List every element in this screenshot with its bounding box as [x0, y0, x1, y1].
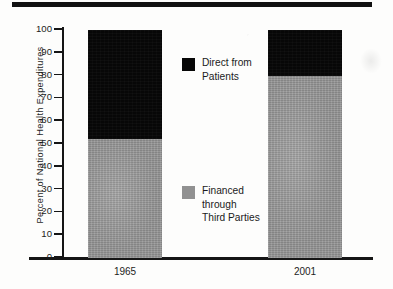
y-axis-tick-label-wrap: 80: [24, 70, 52, 80]
bar-segment-direct-from-patients[interactable]: [268, 30, 342, 76]
y-axis-tick-label: 50: [26, 138, 52, 148]
y-axis-tick-mark: [54, 188, 63, 190]
y-axis-tick-mark: [54, 211, 63, 213]
x-axis-category-label: 2001: [260, 266, 350, 277]
scanned-page: Percent of National Health Expenditures …: [0, 0, 393, 289]
y-axis-tick-mark: [54, 165, 63, 167]
y-axis-tick-label: 90: [26, 47, 52, 57]
bar-group-2001[interactable]: [268, 30, 342, 258]
legend-line-2: through: [202, 198, 260, 212]
y-axis-tick-mark: [54, 28, 63, 30]
gray-swatch-icon: [182, 186, 195, 199]
y-axis-tick-label: 80: [26, 70, 52, 80]
bar-segment-financed-through-third-parties[interactable]: [268, 76, 342, 258]
y-axis-tick-label: 60: [26, 115, 52, 125]
y-axis-tick-label-wrap: 40: [24, 161, 52, 171]
black-swatch-icon: [182, 58, 195, 71]
x-axis-category-label: 1965: [80, 266, 170, 277]
y-axis-tick-label-wrap: 20: [24, 206, 52, 216]
bar-segment-financed-through-third-parties[interactable]: [88, 139, 162, 258]
y-axis-tick-label-wrap: 100: [24, 24, 52, 34]
y-axis-tick-mark: [54, 256, 63, 258]
y-axis-tick-label: 70: [26, 92, 52, 102]
stacked-bar-chart: Percent of National Health Expenditures …: [0, 0, 393, 289]
y-axis-tick-label-wrap: 10: [24, 229, 52, 239]
y-axis-tick-label-wrap: 30: [24, 184, 52, 194]
y-axis-tick-mark: [54, 119, 63, 121]
legend-label-financed-third-parties: Financed through Third Parties: [202, 184, 260, 225]
y-axis-tick-label: 0: [26, 252, 52, 262]
bar-segment-direct-from-patients[interactable]: [88, 30, 162, 139]
bar-group-1965[interactable]: [88, 30, 162, 258]
y-axis-tick-mark: [54, 142, 63, 144]
legend-line-1: Direct from: [202, 56, 252, 70]
y-axis-tick-mark: [54, 51, 63, 53]
y-axis-tick-label-wrap: 50: [24, 138, 52, 148]
y-axis-tick-label: 100: [26, 24, 52, 34]
legend-line-3: Third Parties: [202, 211, 260, 225]
y-axis-tick-label-wrap: 0: [24, 252, 52, 262]
y-axis-tick-label: 30: [26, 184, 52, 194]
y-axis-tick-mark: [54, 74, 63, 76]
legend-line-1: Financed: [202, 184, 260, 198]
y-axis-tick-mark: [54, 97, 63, 99]
y-axis-tick-mark: [54, 233, 63, 235]
y-axis-tick-label: 20: [26, 206, 52, 216]
legend-line-2: Patients: [202, 70, 252, 84]
y-axis-tick-label-wrap: 90: [24, 47, 52, 57]
y-axis-tick-label: 40: [26, 161, 52, 171]
y-axis-tick-label-wrap: 60: [24, 115, 52, 125]
legend-label-direct-from-patients: Direct from Patients: [202, 56, 252, 83]
y-axis-tick-label: 10: [26, 229, 52, 239]
y-axis-tick-label-wrap: 70: [24, 92, 52, 102]
